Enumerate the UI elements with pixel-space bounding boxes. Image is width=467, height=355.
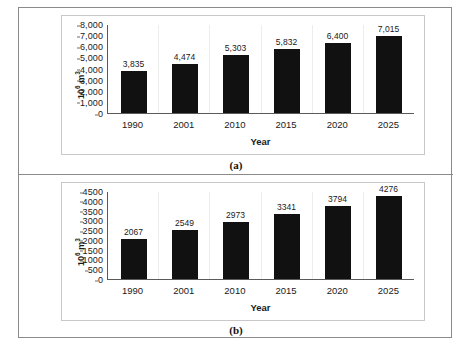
x-axis-ticks-b: 199020012010201520202025 xyxy=(107,285,414,297)
y-tick-label: 2000 xyxy=(83,236,103,245)
figure-container: 106 m3 01,0002,0003,0004,0005,0006,0007,… xyxy=(18,7,452,338)
bar-series-a: 3,8354,4745,3035,8326,4007,015 xyxy=(108,25,414,113)
bar-value-label: 6,400 xyxy=(327,32,348,41)
bar-value-label: 7,015 xyxy=(378,25,399,34)
bar xyxy=(325,206,351,279)
y-tick-mark xyxy=(80,212,83,213)
y-tick-label: 5,000 xyxy=(80,54,103,63)
bar-slot: 2549 xyxy=(159,192,210,279)
bar-series-b: 206725492973334137944276 xyxy=(108,192,414,279)
y-tick-mark xyxy=(77,92,80,93)
y-tick-mark xyxy=(77,70,80,71)
bar xyxy=(376,36,402,113)
bar xyxy=(121,239,147,279)
x-tick-label: 1990 xyxy=(107,285,158,297)
y-tick-mark xyxy=(80,241,83,242)
x-tick-label: 2020 xyxy=(312,285,363,297)
y-tick-label: 1000 xyxy=(83,256,103,265)
y-tick-mark xyxy=(80,260,83,261)
y-tick-label: 0 xyxy=(98,110,103,119)
y-tick-label: 0 xyxy=(98,276,103,285)
bar xyxy=(325,43,351,113)
bar xyxy=(172,64,198,113)
bar-slot: 4,474 xyxy=(159,25,210,113)
bar-slot: 2067 xyxy=(108,192,159,279)
x-tick-label: 2015 xyxy=(261,285,312,297)
x-axis-title-a: Year xyxy=(107,136,414,147)
y-tick-label: 2,000 xyxy=(80,87,103,96)
y-axis-ticks-a: 01,0002,0003,0004,0005,0006,0007,0008,00… xyxy=(63,25,103,114)
chart-plot-frame-a: 106 m3 01,0002,0003,0004,0005,0006,0007,… xyxy=(61,15,425,155)
bar-value-label: 3,835 xyxy=(123,60,144,69)
x-tick-label: 2020 xyxy=(312,119,363,131)
chart-panel-b: 106 m3 050010001500200025003000350040004… xyxy=(19,174,453,339)
y-tick-mark xyxy=(80,221,83,222)
y-axis-ticks-b: 050010001500200025003000350040004500 xyxy=(63,192,103,280)
x-tick-label: 2001 xyxy=(158,285,209,297)
bar-value-label: 2973 xyxy=(226,211,245,220)
y-tick-label: 3000 xyxy=(83,217,103,226)
y-tick-mark xyxy=(80,251,83,252)
panel-caption-b: (b) xyxy=(19,324,453,336)
chart-panel-a: 106 m3 01,0002,0003,0004,0005,0006,0007,… xyxy=(19,8,453,174)
y-tick-mark xyxy=(80,192,83,193)
bar-slot: 6,400 xyxy=(312,25,363,113)
x-tick-label: 2025 xyxy=(363,119,414,131)
x-tick-label: 1990 xyxy=(107,119,158,131)
bar-value-label: 5,832 xyxy=(276,38,297,47)
bar xyxy=(121,71,147,113)
y-tick-label: 7,000 xyxy=(80,32,103,41)
chart-plot-frame-b: 106 m3 050010001500200025003000350040004… xyxy=(61,182,425,321)
bar-slot: 5,832 xyxy=(261,25,312,113)
x-tick-label: 2025 xyxy=(363,285,414,297)
y-tick-mark xyxy=(80,202,83,203)
bar-value-label: 4,474 xyxy=(174,53,195,62)
bar xyxy=(223,55,249,113)
plot-area-a: 01,0002,0003,0004,0005,0006,0007,0008,00… xyxy=(107,25,414,114)
y-tick-label: 1500 xyxy=(83,246,103,255)
x-tick-label: 2010 xyxy=(209,119,260,131)
bar-slot: 2973 xyxy=(210,192,261,279)
y-tick-label: 3,000 xyxy=(80,76,103,85)
y-tick-label: 4,000 xyxy=(80,65,103,74)
bar-slot: 7,015 xyxy=(363,25,414,113)
x-tick-label: 2015 xyxy=(261,119,312,131)
y-tick-mark xyxy=(77,36,80,37)
y-tick-label: 1,000 xyxy=(80,98,103,107)
y-tick-label: 3500 xyxy=(83,207,103,216)
bar xyxy=(223,222,249,279)
y-tick-mark xyxy=(77,81,80,82)
y-tick-mark xyxy=(77,47,80,48)
y-tick-mark xyxy=(77,25,80,26)
x-tick-label: 2010 xyxy=(209,285,260,297)
y-tick-label: 500 xyxy=(88,266,103,275)
y-tick-mark xyxy=(80,231,83,232)
y-tick-mark xyxy=(95,280,98,281)
bar-slot: 3794 xyxy=(312,192,363,279)
bar xyxy=(274,49,300,113)
x-axis-line-a xyxy=(107,113,414,114)
bar-value-label: 5,303 xyxy=(225,44,246,53)
x-axis-line-b xyxy=(107,279,414,280)
y-tick-label: 2500 xyxy=(83,227,103,236)
x-tick-label: 2001 xyxy=(158,119,209,131)
bar-value-label: 3341 xyxy=(277,203,296,212)
y-tick-label: 4500 xyxy=(83,188,103,197)
y-tick-label: 4000 xyxy=(83,197,103,206)
y-tick-label: 6,000 xyxy=(80,43,103,52)
bar xyxy=(172,230,198,279)
bar-slot: 3341 xyxy=(261,192,312,279)
y-tick-mark xyxy=(95,114,98,115)
plot-area-b: 050010001500200025003000350040004500 206… xyxy=(107,192,414,280)
y-tick-label: 8,000 xyxy=(80,21,103,30)
y-tick-mark xyxy=(77,58,80,59)
y-tick-mark xyxy=(77,103,80,104)
y-tick-mark xyxy=(85,270,88,271)
bar-value-label: 2067 xyxy=(124,228,143,237)
bar-slot: 3,835 xyxy=(108,25,159,113)
bar xyxy=(274,214,300,279)
bar-slot: 4276 xyxy=(363,192,414,279)
bar-value-label: 2549 xyxy=(175,219,194,228)
bar-slot: 5,303 xyxy=(210,25,261,113)
x-axis-ticks-a: 199020012010201520202025 xyxy=(107,119,414,131)
